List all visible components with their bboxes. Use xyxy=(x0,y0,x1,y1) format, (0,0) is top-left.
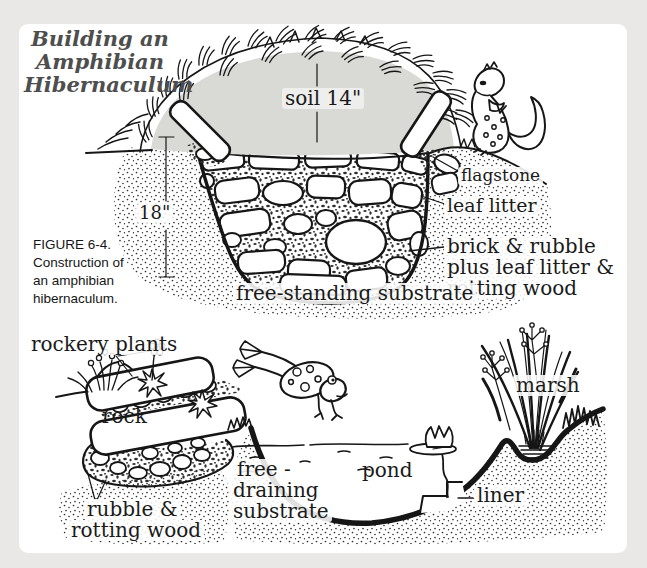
newt-icon xyxy=(472,62,545,155)
label-marsh: marsh xyxy=(513,375,583,396)
label-free-draining-2: draining xyxy=(230,480,322,501)
figure-title: Building an Amphibian Hibernaculum xyxy=(24,27,176,96)
label-rockery-plants: rockery plants xyxy=(28,334,180,355)
label-free-draining-1: free - xyxy=(234,459,294,480)
figure-caption: FIGURE 6-4. Construction of an amphibian… xyxy=(33,236,155,308)
caption-line-1: FIGURE 6-4. xyxy=(33,236,155,254)
caption-line-3: an amphibian xyxy=(33,272,155,290)
title-line-3: Hibernaculum xyxy=(24,73,176,96)
title-line-2: Amphibian xyxy=(24,50,176,73)
page-background: Building an Amphibian Hibernaculum FIGUR… xyxy=(0,0,647,568)
frog-icon xyxy=(233,341,349,420)
label-rubble-2: rotting wood xyxy=(68,520,204,541)
label-pond: pond xyxy=(359,460,416,481)
title-line-1: Building an xyxy=(24,27,176,50)
label-pit-depth: 18" xyxy=(136,204,173,223)
label-liner: liner xyxy=(474,485,527,506)
label-brick-rubble-2: plus leaf litter & xyxy=(444,257,617,278)
caption-line-4: hibernaculum. xyxy=(33,290,155,308)
label-free-draining-3: substrate xyxy=(230,501,332,522)
caption-line-2: Construction of xyxy=(33,254,155,272)
label-brick-rubble-1: brick & rubble xyxy=(444,236,599,257)
label-soil-depth: soil 14" xyxy=(282,88,364,109)
label-flagstone: flagstone xyxy=(458,167,543,185)
label-leaf-litter: leaf litter xyxy=(444,196,539,216)
label-free-standing-substrate: free-standing substrate xyxy=(233,283,476,304)
label-rock: rock xyxy=(99,406,150,427)
label-rubble-1: rubble & xyxy=(84,499,180,520)
